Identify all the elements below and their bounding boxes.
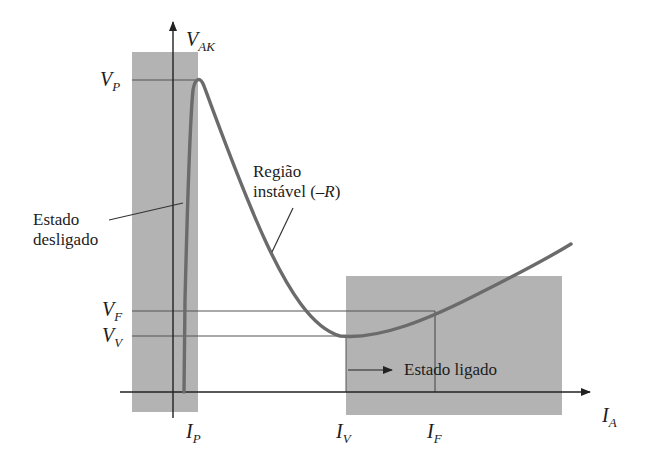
unstable-region-label: Região instável (–R): [253, 162, 340, 202]
off-state-label: Estado desligado: [33, 210, 98, 250]
unstable-region-label-line2: instável (–R): [253, 182, 340, 202]
unstable-region-leader-line: [272, 208, 293, 252]
vak-ia-characteristic-diagram: VAK IA VP VF VV IP IV IF Estado desligad…: [0, 0, 648, 469]
x-axis-label: IA: [602, 404, 617, 431]
on-state-region: [346, 276, 562, 415]
y-axis-label: VAK: [186, 28, 215, 55]
ip-label: IP: [186, 420, 201, 447]
vp-label: VP: [100, 68, 120, 95]
on-state-label: Estado ligado: [404, 360, 497, 380]
vv-label: VV: [102, 324, 122, 351]
if-label: IF: [427, 420, 442, 447]
iv-label: IV: [336, 420, 351, 447]
vf-label: VF: [102, 298, 122, 325]
